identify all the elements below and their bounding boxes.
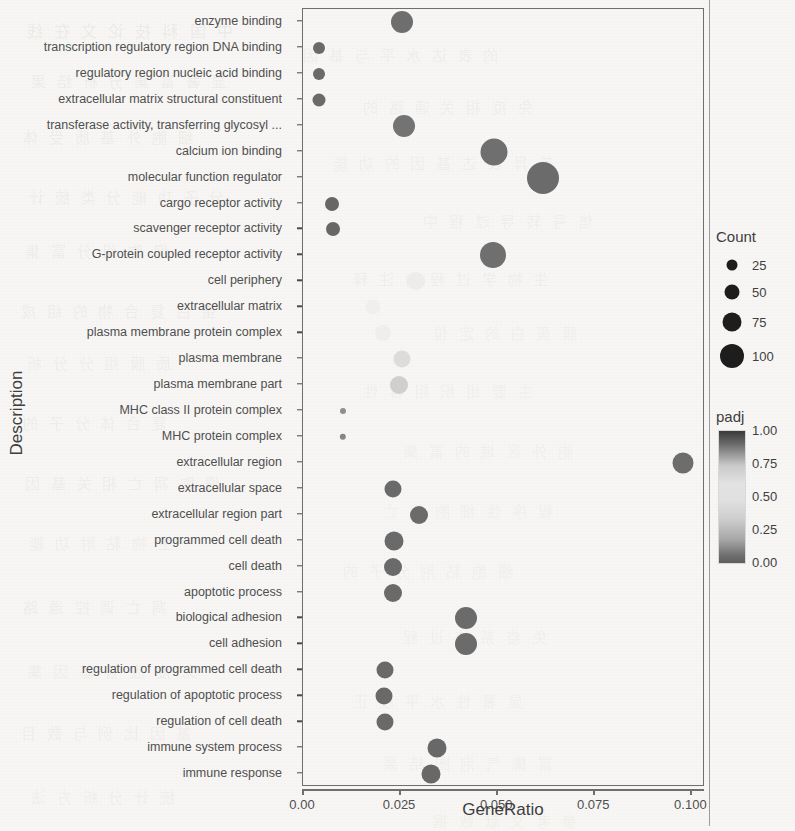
data-point bbox=[455, 633, 477, 655]
x-tick-mark bbox=[399, 789, 401, 795]
data-point bbox=[455, 607, 477, 629]
y-tick-mark bbox=[297, 695, 302, 696]
y-tick-label: molecular function regulator bbox=[128, 170, 282, 184]
count-legend-title: Count bbox=[716, 228, 756, 245]
data-point bbox=[394, 351, 411, 368]
y-tick-label: cell death bbox=[228, 559, 282, 573]
y-tick-mark bbox=[297, 772, 302, 773]
y-tick-mark bbox=[297, 254, 302, 255]
data-point bbox=[385, 531, 404, 550]
y-tick-label: cell adhesion bbox=[209, 636, 282, 650]
y-tick-mark bbox=[297, 228, 302, 229]
data-point bbox=[325, 197, 339, 211]
padj-tick-label: 1.00 bbox=[752, 423, 777, 438]
padj-tick-label: 0.00 bbox=[752, 555, 777, 570]
y-tick-label: cell periphery bbox=[208, 273, 282, 287]
data-point bbox=[410, 506, 428, 524]
y-tick-mark bbox=[297, 20, 302, 21]
y-tick-label: enzyme binding bbox=[194, 14, 282, 28]
data-point bbox=[340, 408, 346, 414]
data-point bbox=[407, 272, 425, 290]
count-legend-label: 25 bbox=[752, 258, 766, 273]
y-tick-label: extracellular region bbox=[176, 455, 282, 469]
x-axis-line bbox=[302, 789, 704, 791]
y-axis-title: Description bbox=[2, 0, 32, 826]
legend-divider bbox=[709, 0, 710, 826]
data-point bbox=[365, 300, 380, 315]
y-axis-title-label: Description bbox=[7, 370, 27, 455]
y-tick-mark bbox=[297, 306, 302, 307]
data-point bbox=[375, 688, 392, 705]
data-point bbox=[480, 242, 506, 268]
data-point bbox=[393, 115, 415, 137]
y-tick-label: MHC class II protein complex bbox=[119, 403, 282, 417]
plot-panel bbox=[302, 8, 704, 786]
y-tick-label: MHC protein complex bbox=[162, 429, 282, 443]
padj-colorbar bbox=[718, 430, 746, 564]
x-tick-mark bbox=[496, 789, 498, 795]
y-axis-tick-labels: enzyme bindingtranscription regulatory r… bbox=[30, 0, 292, 826]
y-tick-label: transcription regulatory region DNA bind… bbox=[44, 40, 282, 54]
y-tick-label: plasma membrane part bbox=[153, 377, 282, 391]
y-tick-mark bbox=[297, 461, 302, 462]
y-tick-mark bbox=[297, 331, 302, 332]
y-tick-mark bbox=[297, 150, 302, 151]
y-tick-label: calcium ion binding bbox=[176, 144, 282, 158]
y-tick-label: regulation of cell death bbox=[156, 714, 282, 728]
y-tick-mark bbox=[297, 487, 302, 488]
x-tick-mark bbox=[690, 789, 692, 795]
data-point bbox=[672, 452, 693, 473]
data-point bbox=[326, 222, 340, 236]
data-point bbox=[385, 480, 402, 497]
data-point bbox=[481, 138, 508, 165]
y-tick-mark bbox=[297, 435, 302, 436]
y-tick-label: plasma membrane protein complex bbox=[87, 325, 282, 339]
y-tick-mark bbox=[297, 124, 302, 125]
data-point bbox=[422, 765, 441, 784]
y-tick-mark bbox=[297, 539, 302, 540]
data-point bbox=[376, 662, 393, 679]
y-tick-label: extracellular matrix bbox=[177, 299, 282, 313]
count-legend-label: 100 bbox=[752, 349, 774, 364]
y-tick-mark bbox=[297, 72, 302, 73]
y-tick-label: G-protein coupled receptor activity bbox=[92, 247, 282, 261]
count-legend-label: 50 bbox=[752, 285, 766, 300]
data-point bbox=[428, 739, 447, 758]
y-tick-label: apoptotic process bbox=[184, 585, 282, 599]
data-point bbox=[390, 376, 408, 394]
legend-panel: Count 255075100 padj 1.000.750.500.250.0… bbox=[716, 0, 795, 826]
y-tick-label: immune response bbox=[183, 766, 282, 780]
data-point bbox=[313, 42, 325, 54]
x-tick-mark bbox=[593, 789, 595, 795]
y-tick-label: regulation of programmed cell death bbox=[82, 662, 282, 676]
count-legend-dot bbox=[727, 260, 738, 271]
y-tick-mark bbox=[297, 565, 302, 566]
data-point bbox=[339, 434, 345, 440]
y-tick-label: regulatory region nucleic acid binding bbox=[76, 66, 282, 80]
y-tick-mark bbox=[297, 383, 302, 384]
padj-tick-label: 0.50 bbox=[752, 489, 777, 504]
y-tick-mark bbox=[297, 46, 302, 47]
y-tick-mark bbox=[297, 669, 302, 670]
y-tick-label: extracellular region part bbox=[151, 507, 282, 521]
y-tick-mark bbox=[297, 643, 302, 644]
data-point bbox=[527, 162, 559, 194]
y-tick-label: extracellular matrix structural constitu… bbox=[58, 92, 282, 106]
count-legend-label: 75 bbox=[752, 315, 766, 330]
y-tick-label: biological adhesion bbox=[176, 610, 282, 624]
y-tick-label: immune system process bbox=[147, 740, 282, 754]
data-point bbox=[375, 325, 391, 341]
y-tick-label: plasma membrane bbox=[178, 351, 282, 365]
padj-tick-label: 0.25 bbox=[752, 522, 777, 537]
y-tick-mark bbox=[297, 98, 302, 99]
y-tick-label: transferase activity, transferring glyco… bbox=[47, 118, 282, 132]
padj-legend-title: padj bbox=[716, 408, 744, 425]
y-tick-mark bbox=[297, 746, 302, 747]
count-legend-dot bbox=[725, 285, 740, 300]
data-point bbox=[376, 714, 393, 731]
data-point bbox=[384, 584, 402, 602]
y-tick-mark bbox=[297, 409, 302, 410]
y-tick-mark bbox=[297, 720, 302, 721]
y-tick-label: regulation of apoptotic process bbox=[112, 688, 282, 702]
